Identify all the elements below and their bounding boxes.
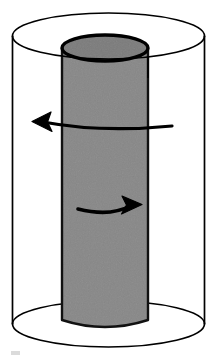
scan-smudge — [11, 351, 20, 355]
cylinder-diagram: Coaxial cylinders with opposing circumfe… — [0, 0, 218, 360]
inner-cylinder — [55, 32, 155, 340]
inner-cylinder-texture — [55, 40, 155, 340]
figure-canvas: Coaxial cylinders with opposing circumfe… — [0, 0, 218, 360]
